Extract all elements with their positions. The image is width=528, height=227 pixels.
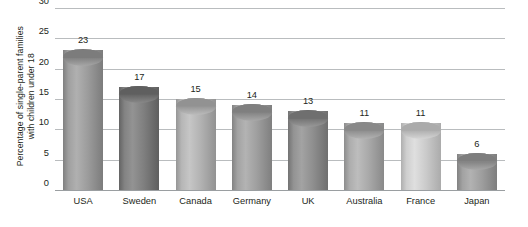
bar-slot: 23 [55, 8, 111, 190]
bar-australia[interactable] [344, 123, 384, 190]
value-label-canada: 15 [176, 85, 216, 94]
single-parent-families-bar-chart: Percentage of single-parent families wit… [0, 0, 528, 227]
bar-slot: 11 [336, 8, 392, 190]
cylinder [344, 123, 384, 190]
cylinder [119, 87, 159, 190]
x-tick-label-uk: UK [280, 196, 336, 207]
value-label-usa: 23 [63, 36, 103, 45]
y-tick-label-15: 15 [3, 88, 49, 97]
x-axis-labels: USASwedenCanadaGermanyUKAustraliaFranceJ… [55, 196, 505, 216]
x-tick-label-japan: Japan [449, 196, 505, 207]
bar-slot: 15 [168, 8, 224, 190]
y-tick-label-20: 20 [3, 58, 49, 67]
cylinder [288, 111, 328, 190]
x-tick-label-france: France [393, 196, 449, 207]
bar-slot: 14 [224, 8, 280, 190]
cylinder [401, 123, 441, 190]
x-tick-label-usa: USA [55, 196, 111, 207]
bar-slot: 17 [111, 8, 167, 190]
y-tick-label-5: 5 [3, 149, 49, 158]
y-tick-label-25: 25 [3, 27, 49, 36]
bar-sweden[interactable] [119, 87, 159, 190]
value-label-germany: 14 [232, 91, 272, 100]
x-tick-label-australia: Australia [336, 196, 392, 207]
bar-usa[interactable] [63, 50, 103, 190]
bar-japan[interactable] [457, 154, 497, 190]
value-label-australia: 11 [344, 109, 384, 118]
value-label-japan: 6 [457, 140, 497, 149]
cylinder [457, 154, 497, 190]
value-label-uk: 13 [288, 97, 328, 106]
cylinder [176, 99, 216, 190]
cylinder [63, 50, 103, 190]
y-tick-label-0: 0 [3, 179, 49, 188]
bar-slot: 6 [449, 8, 505, 190]
bar-uk[interactable] [288, 111, 328, 190]
cylinder [232, 105, 272, 190]
bar-slot: 11 [393, 8, 449, 190]
x-tick-label-sweden: Sweden [111, 196, 167, 207]
bar-germany[interactable] [232, 105, 272, 190]
y-tick-label-30: 30 [3, 0, 49, 6]
gridline-0 [55, 190, 505, 191]
x-tick-label-canada: Canada [168, 196, 224, 207]
bar-canada[interactable] [176, 99, 216, 190]
y-tick-label-10: 10 [3, 118, 49, 127]
bar-france[interactable] [401, 123, 441, 190]
value-label-sweden: 17 [119, 73, 159, 82]
cylinder-body [63, 50, 103, 190]
value-label-france: 11 [401, 109, 441, 118]
bar-slot: 13 [280, 8, 336, 190]
bars-layer: 231715141311116 [55, 8, 505, 190]
x-tick-label-germany: Germany [224, 196, 280, 207]
